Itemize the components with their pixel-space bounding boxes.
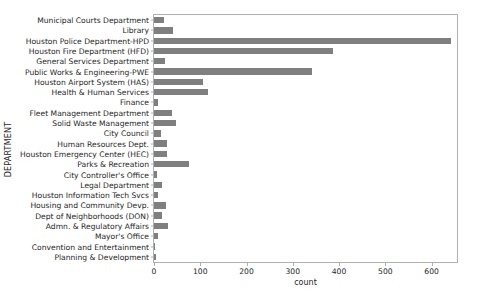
x-tick-label: 200 bbox=[239, 267, 254, 276]
bar bbox=[154, 17, 164, 23]
bar bbox=[154, 58, 165, 64]
bar-row: Parks & Recreation bbox=[154, 161, 457, 167]
bar bbox=[154, 212, 162, 218]
bar-row: Houston Emergency Center (HEC) bbox=[154, 151, 457, 157]
bar-row: Mayor's Office bbox=[154, 233, 457, 239]
y-tick-label: Fleet Management Department bbox=[29, 108, 149, 117]
bar bbox=[154, 151, 167, 157]
y-tick-label: Houston Airport System (HAS) bbox=[34, 77, 149, 86]
bar-row: Admn. & Regulatory Affairs bbox=[154, 223, 457, 229]
bar bbox=[154, 233, 158, 239]
bar bbox=[154, 120, 176, 126]
bar-chart-figure: DEPARTMENT Municipal Courts DepartmentLi… bbox=[0, 0, 480, 299]
bar-row: Houston Fire Department (HFD) bbox=[154, 48, 457, 54]
x-tick-label: 500 bbox=[378, 267, 393, 276]
y-tick-label: Houston Fire Department (HFD) bbox=[29, 47, 149, 56]
bar bbox=[154, 171, 157, 177]
x-axis-title: count bbox=[153, 278, 458, 287]
bar bbox=[154, 99, 158, 105]
y-tick-label: City Council bbox=[104, 129, 149, 138]
bar bbox=[154, 68, 312, 74]
y-tick-label: Admn. & Regulatory Affairs bbox=[46, 221, 149, 230]
x-tick-mark bbox=[200, 262, 201, 266]
bar-row: Fleet Management Department bbox=[154, 110, 457, 116]
y-tick-label: City Controller's Office bbox=[64, 170, 149, 179]
y-tick-label: Finance bbox=[120, 98, 149, 107]
y-tick-label: Houston Emergency Center (HEC) bbox=[20, 149, 149, 158]
bar bbox=[154, 79, 203, 85]
bar-row: Planning & Development bbox=[154, 254, 457, 260]
bar-row: Convention and Entertainment bbox=[154, 243, 457, 249]
bar-row: Municipal Courts Department bbox=[154, 17, 457, 23]
x-tick-mark bbox=[339, 262, 340, 266]
bar-row: Legal Department bbox=[154, 182, 457, 188]
y-tick-label: Public Works & Engineering-PWE bbox=[25, 67, 149, 76]
bar bbox=[154, 140, 167, 146]
bar-row: Solid Waste Management bbox=[154, 120, 457, 126]
bar-row: Dept of Neighborhoods (DON) bbox=[154, 212, 457, 218]
bar bbox=[154, 202, 166, 208]
bar bbox=[154, 182, 162, 188]
bar-row: Finance bbox=[154, 99, 457, 105]
x-tick-label: 400 bbox=[332, 267, 347, 276]
bar-row: Human Resources Dept. bbox=[154, 140, 457, 146]
bar-row: Library bbox=[154, 27, 457, 33]
x-tick-mark bbox=[385, 262, 386, 266]
bar bbox=[154, 223, 168, 229]
bar bbox=[154, 27, 173, 33]
x-tick-label: 0 bbox=[152, 267, 157, 276]
y-tick-label: Mayor's Office bbox=[95, 232, 149, 241]
bar bbox=[154, 38, 451, 44]
bar-row: City Council bbox=[154, 130, 457, 136]
bar bbox=[154, 243, 155, 249]
y-tick-label: Municipal Courts Department bbox=[37, 16, 149, 25]
plot-area: Municipal Courts DepartmentLibraryHousto… bbox=[153, 14, 458, 263]
bar-row: General Services Department bbox=[154, 58, 457, 64]
y-tick-label: Houston Information Tech Svcs bbox=[32, 191, 149, 200]
bar bbox=[154, 110, 172, 116]
bar-row: Housing and Community Devp. bbox=[154, 202, 457, 208]
x-tick-label: 100 bbox=[193, 267, 208, 276]
x-tick-mark bbox=[154, 262, 155, 266]
y-axis-title: DEPARTMENT bbox=[0, 0, 16, 299]
bar-row: Houston Airport System (HAS) bbox=[154, 79, 457, 85]
y-tick-label: Parks & Recreation bbox=[77, 160, 149, 169]
y-tick-label: Dept of Neighborhoods (DON) bbox=[35, 211, 149, 220]
bar-row: Houston Police Department-HPD bbox=[154, 38, 457, 44]
bar bbox=[154, 254, 156, 260]
bar-row: Houston Information Tech Svcs bbox=[154, 192, 457, 198]
x-tick-mark bbox=[247, 262, 248, 266]
bar bbox=[154, 192, 158, 198]
y-tick-label: General Services Department bbox=[36, 57, 149, 66]
x-tick-mark bbox=[432, 262, 433, 266]
y-tick-label: Human Resources Dept. bbox=[57, 139, 149, 148]
x-tick-mark bbox=[293, 262, 294, 266]
bar-row: Health & Human Services bbox=[154, 89, 457, 95]
y-tick-label: Library bbox=[122, 26, 149, 35]
y-tick-label: Solid Waste Management bbox=[52, 119, 149, 128]
bar bbox=[154, 161, 189, 167]
y-tick-label: Housing and Community Devp. bbox=[30, 201, 149, 210]
bar bbox=[154, 130, 161, 136]
y-tick-label: Health & Human Services bbox=[51, 88, 149, 97]
bar bbox=[154, 48, 333, 54]
y-tick-label: Houston Police Department-HPD bbox=[26, 36, 149, 45]
x-tick-label: 600 bbox=[424, 267, 439, 276]
y-tick-label: Legal Department bbox=[80, 180, 149, 189]
bar-row: City Controller's Office bbox=[154, 171, 457, 177]
y-tick-label: Planning & Development bbox=[54, 252, 149, 261]
y-tick-label: Convention and Entertainment bbox=[32, 242, 149, 251]
x-tick-label: 300 bbox=[286, 267, 301, 276]
bar bbox=[154, 89, 208, 95]
bar-row: Public Works & Engineering-PWE bbox=[154, 68, 457, 74]
